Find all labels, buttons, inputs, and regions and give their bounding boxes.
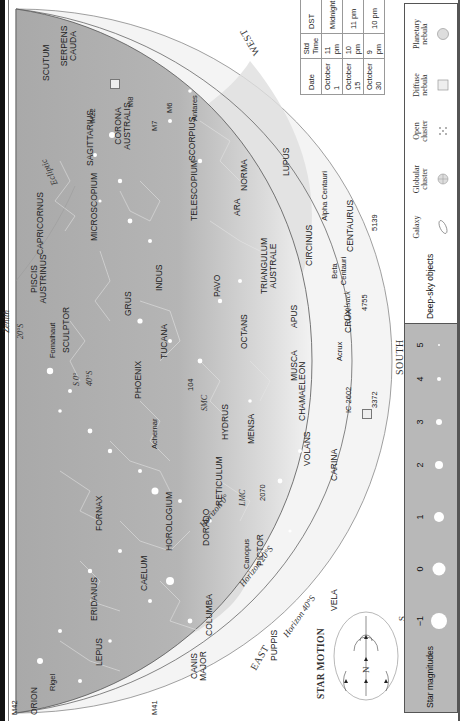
star-dot-icon — [434, 512, 444, 522]
magnitude-legend: Star magnitudes −1 0 1 2 3 4 — [405, 324, 457, 712]
object-m42: M42 — [10, 700, 19, 715]
diffuse-nebula-3372-icon — [362, 409, 372, 419]
globular-cluster-icon — [437, 173, 449, 185]
constellation-lepus: LEPUS — [95, 638, 104, 666]
object-smc: SMC — [200, 395, 209, 411]
legend-galaxy-label: Galaxy — [413, 207, 421, 247]
open-cluster-icon — [437, 125, 449, 137]
object-m6: M6 — [165, 103, 174, 113]
deep-sky-legend: Deep-sky objects Galaxy Globular cluster… — [405, 3, 457, 324]
constellation-columba: COLUMBA — [205, 594, 214, 636]
constellation-indus: INDUS — [155, 265, 164, 291]
legend-open-cluster-label: Open cluster — [413, 111, 429, 151]
constellation-fornax: FORNAX — [95, 496, 104, 531]
legend-diffuse-nebula-label: Diffuse nebula — [413, 65, 429, 105]
legend-diffuse-nebula: Diffuse nebula — [405, 65, 457, 105]
table-row: October 15 10 pm 11 pm — [343, 0, 364, 95]
bottom-border — [458, 0, 460, 721]
deep-sky-title: Deep-sky objects — [425, 254, 435, 319]
magnitude-1: 1 — [411, 502, 451, 532]
constellation-scutum: SCUTUM — [42, 45, 51, 81]
constellation-apus: APUS — [290, 305, 299, 328]
magnitude-label: 3 — [415, 407, 425, 437]
table-row: October 30 9 pm 10 pm — [364, 0, 385, 95]
magnitude-label: −1 — [415, 606, 425, 636]
object-m41: M41 — [150, 700, 159, 715]
object-ic-2602: IC 2602 — [344, 387, 353, 413]
constellation-pavo: PAVO — [213, 275, 222, 297]
constellation-carina: CARINA — [330, 449, 339, 481]
star-achernar: Achernar — [150, 419, 159, 449]
object-4755: 4755 — [360, 294, 369, 311]
constellation-piscis-austrinus: PISCIS AUSTRINUS — [30, 249, 48, 309]
magnitude-label: 2 — [415, 450, 425, 480]
constellation-lupus: LUPUS — [282, 148, 291, 176]
object-3372: 3372 — [370, 391, 379, 408]
time-table-cell: 9 pm — [364, 33, 385, 58]
constellation-norma: NORMA — [240, 159, 249, 191]
time-table-cell: 11 pm — [322, 33, 343, 58]
time-table-cell: 10 pm — [364, 0, 385, 33]
time-table-cell: October 15 — [343, 59, 364, 95]
constellation-reticulum: RETICULUM — [215, 456, 224, 506]
constellation-sculptor: SCULPTOR — [62, 307, 71, 353]
star-acrux: Acrux — [335, 342, 344, 361]
magnitude-label: 4 — [415, 364, 425, 394]
constellation-horologium: HOROLOGIUM — [165, 492, 174, 551]
south-label: SOUTH — [395, 339, 404, 375]
star-rigel: Rigel — [48, 674, 57, 691]
constellation-phoenix: PHOENIX — [134, 361, 143, 399]
constellation-volans: VOLANS — [303, 432, 312, 467]
magnitude-label: 1 — [415, 502, 425, 532]
time-table-cell: October 1 — [322, 59, 343, 95]
constellation-capricornus: CAPRICORNUS — [36, 192, 45, 255]
zenith-mark-20s: 20°S — [16, 324, 25, 339]
object-5139: 5139 — [370, 214, 379, 231]
zenith-mark-40s: 40°S — [85, 371, 94, 386]
magnitude-label: 5 — [415, 330, 425, 360]
legend-globular-cluster-label: Globular cluster — [413, 157, 429, 201]
magnitude-label: 0 — [415, 554, 425, 584]
constellation-telescopium: TELESCOPIUM — [190, 160, 199, 221]
constellation-canis-major: CANIS MAJOR — [190, 646, 208, 686]
magnitude-5: 5 — [411, 330, 451, 360]
time-table: Date Std Time DST October 1 11 pm Midnig… — [300, 0, 385, 95]
diffuse-nebula-icon — [437, 79, 449, 91]
zenith-mark-s0: S 0° — [72, 373, 81, 386]
magnitude-4: 4 — [411, 364, 451, 394]
galaxy-icon — [438, 219, 448, 235]
magnitude-2: 2 — [411, 450, 451, 480]
magnitude-3: 3 — [411, 407, 451, 437]
star-dot-icon — [436, 419, 442, 425]
magnitude-minus1: −1 — [411, 606, 451, 636]
table-row: October 1 11 pm Midnight — [322, 0, 343, 95]
constellation-musca: MUSCA — [290, 350, 299, 381]
star-dot-icon — [435, 461, 443, 469]
constellation-puppis: PUPPIS — [270, 630, 279, 661]
constellation-triangulum-australe: TRIANGULUM AUSTRALE — [260, 231, 278, 301]
magnitude-0: 0 — [411, 554, 451, 584]
time-table-cell: Midnight — [322, 0, 343, 33]
star-dot-icon — [437, 377, 441, 381]
legend-planetary-nebula-label: Planetary nebula — [413, 9, 429, 59]
star-canopus: Canopus — [242, 539, 251, 569]
constellation-corona-australis: CORONA AUSTRALIS — [114, 101, 132, 151]
star-motion-title: STAR MOTION — [316, 628, 326, 699]
magnitudes-title: Star magnitudes — [425, 646, 435, 708]
constellation-ara: ARA — [233, 199, 242, 216]
star-antares: Antares — [190, 95, 199, 121]
legend-planetary-nebula: Planetary nebula — [405, 9, 457, 59]
constellation-scorpius: SCORPIUS — [188, 117, 197, 161]
star-fomalhaut: Fomalhaut — [48, 323, 57, 358]
star-dot-icon — [438, 344, 440, 346]
planetary-nebula-icon — [436, 27, 450, 41]
constellation-mensa: MENSA — [247, 414, 256, 444]
constellation-hydrus: HYDRUS — [221, 404, 230, 440]
star-dot-icon — [433, 563, 446, 576]
object-m8: M8 — [126, 97, 135, 107]
star-motion-diagram — [326, 601, 402, 711]
object-lmc: LMC — [238, 490, 247, 506]
star-alpha-centauri: Alpha Centauri — [320, 171, 329, 221]
star-beta-centauri: Beta Centauri — [330, 251, 348, 291]
legend-globular-cluster: Globular cluster — [405, 157, 457, 201]
